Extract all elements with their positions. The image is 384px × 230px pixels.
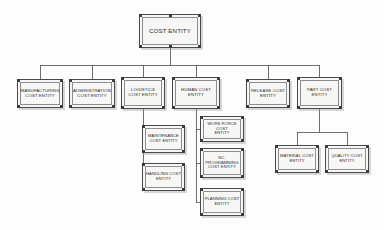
- handle-top-left-icon: [69, 79, 72, 82]
- node-manufacturing-cost-entity[interactable]: MANUFACTURING COST ENTITY: [17, 79, 63, 108]
- handle-top-left-icon: [139, 14, 142, 17]
- node-material-cost-entity[interactable]: MATERIAL COST ENTITY: [275, 145, 319, 173]
- handle-bottom-left-icon: [200, 213, 203, 216]
- handle-bottom-left-icon: [200, 139, 203, 142]
- node-label: RELEASE COST ENTITY: [249, 89, 287, 99]
- handle-top-right-icon: [162, 77, 165, 80]
- handle-top-right-icon: [198, 14, 201, 17]
- node-nc-programming-cost-entity[interactable]: NC- PROGRAMMING COST ENTITY: [200, 148, 244, 178]
- handle-bottom-left-icon: [17, 105, 20, 108]
- node-cost-entity[interactable]: COST ENTITY: [139, 14, 201, 48]
- node-release-cost-entity[interactable]: RELEASE COST ENTITY: [246, 79, 290, 108]
- handle-bottom-left-icon: [246, 105, 249, 108]
- handle-top-right-icon: [316, 145, 319, 148]
- handle-top-right-icon: [217, 77, 220, 80]
- node-label: MAINTENANCE COST ENTITY: [146, 134, 181, 143]
- handle-bottom-right-icon: [366, 170, 369, 173]
- node-logistics-cost-entity[interactable]: LOGISTICS COST ENTITY: [121, 77, 165, 109]
- handle-bottom-right-icon: [339, 106, 342, 109]
- handle-bottom-right-icon: [287, 105, 290, 108]
- handle-top-left-icon: [246, 79, 249, 82]
- handle-top-left-icon: [200, 148, 203, 151]
- node-administration-cost-entity[interactable]: ADMINISTRATION COST ENTITY: [69, 79, 115, 108]
- node-human-cost-entity[interactable]: HUMAN COST ENTITY: [172, 77, 220, 109]
- node-label: WORK FORCE COST ENTITY: [201, 122, 243, 136]
- handle-bottom-left-icon: [139, 45, 142, 48]
- handle-top-left-icon: [17, 79, 20, 82]
- node-label: LOGISTICS COST ENTITY: [126, 88, 159, 98]
- handle-top-middle-icon: [169, 14, 172, 17]
- handle-top-right-icon: [366, 145, 369, 148]
- handle-bottom-right-icon: [217, 106, 220, 109]
- node-maintenance-cost-entity[interactable]: MAINTENANCE COST ENTITY: [142, 125, 185, 153]
- handle-bottom-left-icon: [172, 106, 175, 109]
- handle-bottom-right-icon: [182, 150, 185, 153]
- handle-top-left-icon: [142, 163, 145, 166]
- node-label: HANDLING COST ENTITY: [144, 172, 183, 181]
- handle-bottom-right-icon: [241, 175, 244, 178]
- handle-bottom-left-icon: [142, 188, 145, 191]
- handle-bottom-right-icon: [112, 105, 115, 108]
- handle-bottom-left-icon: [69, 105, 72, 108]
- node-label: ADMINISTRATION COST ENTITY: [71, 89, 113, 99]
- node-handling-cost-entity[interactable]: HANDLING COST ENTITY: [142, 163, 185, 191]
- handle-bottom-right-icon: [241, 213, 244, 216]
- node-label: COST ENTITY: [147, 28, 193, 35]
- handle-top-left-icon: [200, 116, 203, 119]
- handle-bottom-left-icon: [297, 106, 300, 109]
- handle-bottom-right-icon: [182, 188, 185, 191]
- handle-top-left-icon: [325, 145, 328, 148]
- handle-bottom-right-icon: [60, 105, 63, 108]
- node-label: QUALITY COST ENTITY: [329, 154, 364, 163]
- handle-top-right-icon: [339, 77, 342, 80]
- node-work-force-cost-entity[interactable]: WORK FORCE COST ENTITY: [200, 116, 244, 142]
- handle-top-right-icon: [182, 163, 185, 166]
- handle-top-right-icon: [287, 79, 290, 82]
- handle-bottom-left-icon: [325, 170, 328, 173]
- handle-top-left-icon: [200, 188, 203, 191]
- handle-bottom-left-icon: [142, 150, 145, 153]
- handle-bottom-right-icon: [316, 170, 319, 173]
- cost-entity-hierarchy-diagram: COST ENTITY MANUFACTURING COST ENTITY AD…: [0, 0, 384, 230]
- handle-top-right-icon: [112, 79, 115, 82]
- handle-top-left-icon: [297, 77, 300, 80]
- node-label: PART COST ENTITY: [305, 88, 334, 98]
- node-quality-cost-entity[interactable]: QUALITY COST ENTITY: [325, 145, 369, 173]
- handle-top-left-icon: [121, 77, 124, 80]
- handle-bottom-middle-icon: [169, 45, 172, 48]
- node-label: PLANNING COST ENTITY: [203, 197, 242, 206]
- handle-top-right-icon: [241, 116, 244, 119]
- handle-top-right-icon: [241, 148, 244, 151]
- handle-top-right-icon: [241, 188, 244, 191]
- node-planning-cost-entity[interactable]: PLANNING COST ENTITY: [200, 188, 244, 216]
- handle-top-left-icon: [275, 145, 278, 148]
- handle-bottom-left-icon: [200, 175, 203, 178]
- handle-bottom-right-icon: [241, 139, 244, 142]
- node-label: NC- PROGRAMMING COST ENTITY: [204, 156, 241, 170]
- handle-top-right-icon: [182, 125, 185, 128]
- handle-bottom-left-icon: [275, 170, 278, 173]
- handle-bottom-right-icon: [198, 45, 201, 48]
- handle-top-right-icon: [60, 79, 63, 82]
- node-label: MANUFACTURING COST ENTITY: [19, 89, 62, 99]
- handle-bottom-left-icon: [121, 106, 124, 109]
- node-part-cost-entity[interactable]: PART COST ENTITY: [297, 77, 342, 109]
- node-label: MATERIAL COST ENTITY: [278, 154, 316, 163]
- node-label: HUMAN COST ENTITY: [179, 88, 213, 98]
- handle-bottom-right-icon: [162, 106, 165, 109]
- handle-top-left-icon: [172, 77, 175, 80]
- handle-top-left-icon: [142, 125, 145, 128]
